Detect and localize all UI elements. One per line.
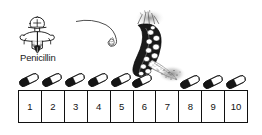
day-box-number: 5	[119, 102, 124, 112]
day-box-number: 2	[50, 102, 55, 112]
day-box-6[interactable]: 6	[134, 91, 157, 122]
day-box-number: 8	[188, 102, 193, 112]
day-box-9[interactable]: 9	[202, 91, 225, 122]
day-box-number: 1	[27, 102, 32, 112]
day-box-number: 4	[96, 102, 101, 112]
capsule-pill	[41, 72, 62, 87]
day-box-2[interactable]: 2	[42, 91, 65, 122]
penicillin-knight-figure	[20, 17, 54, 54]
penicillin-label: Penicillin	[20, 52, 56, 63]
capsule-pill	[110, 72, 131, 87]
day-box-number: 9	[211, 102, 216, 112]
day-box-4[interactable]: 4	[88, 91, 111, 122]
illustration-canvas: Penicillin 1 2 3 4 5 6 7 8 9 10	[0, 0, 262, 135]
capsule-pill	[64, 72, 85, 87]
day-box-5[interactable]: 5	[111, 91, 134, 122]
day-box-number: 7	[165, 102, 170, 112]
germ-antenna	[76, 20, 117, 46]
day-box-7[interactable]: 7	[156, 91, 179, 122]
capsule-pill	[18, 72, 39, 87]
day-box-3[interactable]: 3	[65, 91, 88, 122]
capsule-pill	[225, 74, 246, 89]
day-box-number: 3	[73, 102, 78, 112]
day-box-10[interactable]: 10	[225, 91, 247, 122]
day-box-1[interactable]: 1	[19, 91, 42, 122]
day-box-number: 10	[231, 102, 242, 112]
day-box-row: 1 2 3 4 5 6 7 8 9 10	[18, 90, 248, 123]
day-box-number: 6	[142, 102, 147, 112]
capsule-group	[18, 72, 246, 89]
day-box-8[interactable]: 8	[179, 91, 202, 122]
capsule-pill	[87, 72, 108, 87]
germ-tail	[148, 60, 186, 83]
capsule-pill	[202, 74, 223, 89]
